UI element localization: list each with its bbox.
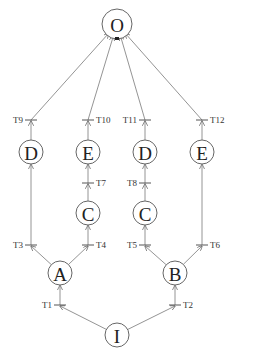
transition-label: T2 [183,300,193,310]
place-node-i: I [105,323,129,347]
arc-T12-O [125,33,202,120]
place-label: B [169,264,182,285]
place-node-c2: C [133,201,157,225]
place-label: C [82,204,95,225]
place-node-d2: D [133,140,157,164]
place-label: C [139,204,152,225]
transition-t1: T1 [42,300,66,310]
transition-t8: T8 [127,178,151,188]
place-node-e2: E [190,140,214,164]
petri-net-diagram: T1T2T3T4T5T6T7T8T9T10T11T12 ODEDECCABI [0,0,258,364]
arc-I-T1 [60,306,106,329]
transition-label: T8 [127,178,137,188]
place-node-c1: C [76,201,100,225]
transition-t12: T12 [196,115,225,125]
transition-t2: T2 [169,300,193,310]
transition-label: T11 [123,115,137,125]
arc-T9-O [31,33,109,120]
place-node-a: A [48,261,72,285]
transition-label: T4 [96,240,106,250]
transition-label: T7 [96,178,106,188]
arc-T10-O [88,36,113,120]
place-label: D [138,143,152,164]
place-label: E [196,143,208,164]
place-node-d1: D [19,140,43,164]
arc-A-T3 [31,246,51,265]
arc-A-T4 [68,246,88,265]
nodes-layer: ODEDECCABI [19,9,214,347]
transition-label: T5 [127,240,137,250]
place-label: A [53,264,67,285]
place-label: D [24,143,38,164]
place-label: O [110,15,124,36]
place-node-b: B [163,261,187,285]
arc-B-T6 [183,246,202,264]
arc-I-T2 [128,306,175,329]
place-label: E [82,143,94,164]
place-node-o: O [102,9,132,39]
transition-label: T3 [13,240,23,250]
place-label: I [114,326,120,347]
convergence-mark [115,37,119,40]
arc-T11-O [121,36,146,120]
transition-label: T1 [42,300,52,310]
transition-t11: T11 [123,115,151,125]
transition-label: T12 [210,115,225,125]
place-node-e1: E [76,140,100,164]
transition-label: T9 [13,115,23,125]
transition-label: T6 [210,240,220,250]
transition-t9: T9 [13,115,37,125]
transition-t7: T7 [82,178,106,188]
transition-label: T10 [96,115,111,125]
transition-t10: T10 [82,115,111,125]
arc-B-T5 [145,246,166,265]
